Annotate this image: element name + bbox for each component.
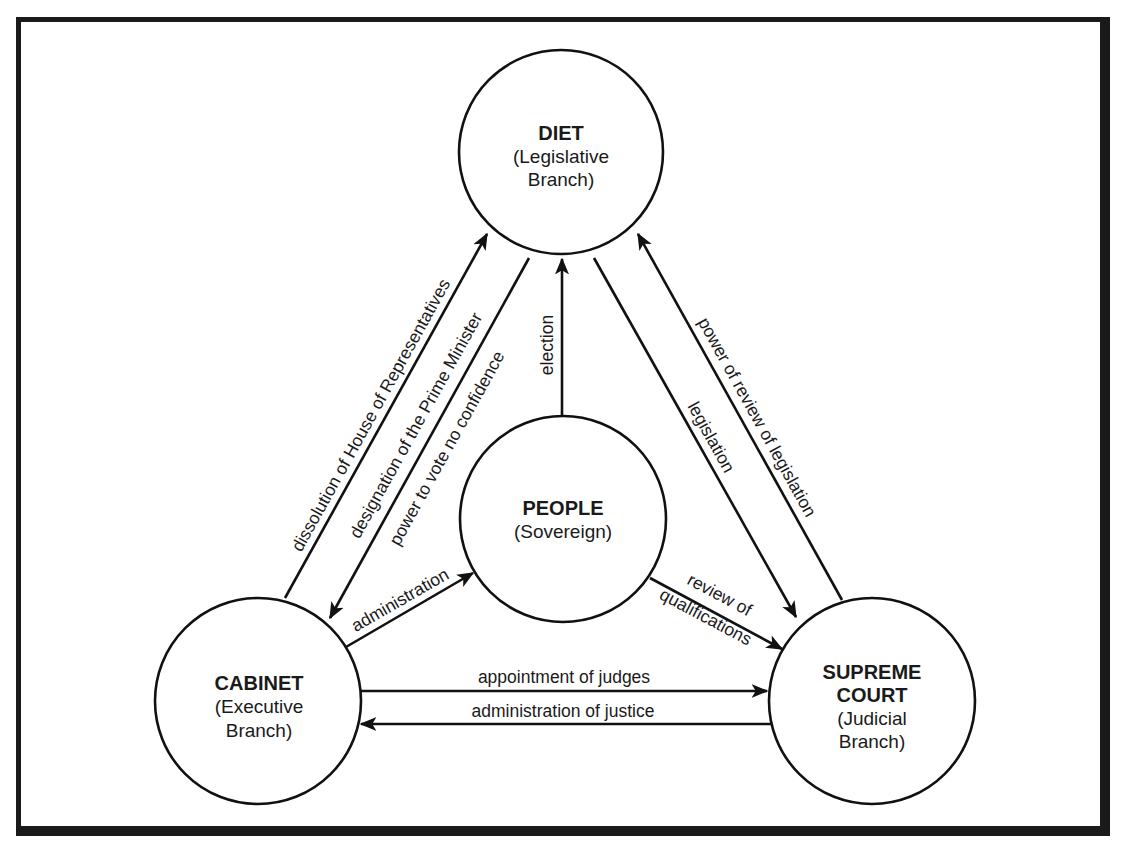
edge-review-legislation-label: power of review of legislation (694, 314, 820, 520)
edge-appointment-label: appointment of judges (478, 667, 650, 687)
node-court-subtitle-line2: Branch) (839, 731, 906, 752)
node-people-circle (460, 416, 666, 622)
node-cabinet-title: CABINET (215, 672, 304, 694)
node-diet-subtitle-line2: Branch) (528, 169, 595, 190)
node-supreme-court: SUPREME COURT (Judicial Branch) (769, 598, 975, 804)
node-court-subtitle-line1: (Judicial (837, 708, 907, 729)
node-diet: DIET (Legislative Branch) (459, 50, 663, 254)
node-people-subtitle: (Sovereign) (514, 521, 612, 542)
node-court-title-line1: SUPREME (823, 661, 922, 683)
edge-administration-label: administration (348, 564, 452, 636)
edge-election-label: election (537, 315, 557, 375)
node-diet-title: DIET (538, 122, 584, 144)
node-cabinet: CABINET (Executive Branch) (155, 598, 361, 804)
node-people-title: PEOPLE (522, 497, 603, 519)
node-cabinet-subtitle-line1: (Executive (215, 696, 304, 717)
edge-review-legislation-arrow (638, 234, 842, 600)
node-court-title-line2: COURT (836, 684, 907, 706)
diagram-canvas: DIET (Legislative Branch) PEOPLE (Sovere… (0, 0, 1124, 851)
node-cabinet-subtitle-line2: Branch) (226, 720, 293, 741)
edge-justice-label: administration of justice (472, 701, 655, 721)
node-diet-subtitle-line1: (Legislative (513, 146, 609, 167)
node-people: PEOPLE (Sovereign) (460, 416, 666, 622)
